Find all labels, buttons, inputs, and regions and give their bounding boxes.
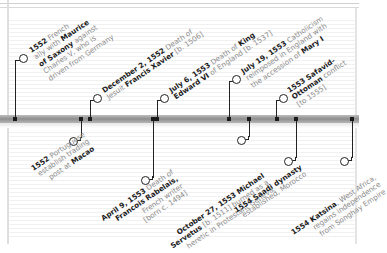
- ruled-line: [9, 212, 355, 213]
- ruled-line: [9, 208, 355, 209]
- event-circle-icon: [284, 157, 293, 166]
- timeline-bar: [0, 115, 359, 123]
- ruled-line: [9, 216, 355, 217]
- event-circle-icon: [340, 157, 349, 166]
- event-circle-icon: [19, 54, 28, 63]
- ruled-line: [9, 204, 355, 205]
- ruled-line: [9, 132, 355, 133]
- frame-top-line-inner: [0, 7, 359, 8]
- event-circle-icon: [160, 94, 169, 103]
- event-circle-icon: [232, 75, 241, 84]
- ruled-line: [9, 108, 355, 109]
- ruled-line: [9, 140, 355, 141]
- frame-top-line: [0, 3, 359, 4]
- timeline-bar-shadow: [0, 123, 359, 128]
- event-circle-icon: [93, 94, 102, 103]
- ruled-line: [9, 20, 355, 21]
- event-circle-icon: [237, 136, 246, 145]
- event-circle-icon: [279, 94, 288, 103]
- ruled-line: [9, 136, 355, 137]
